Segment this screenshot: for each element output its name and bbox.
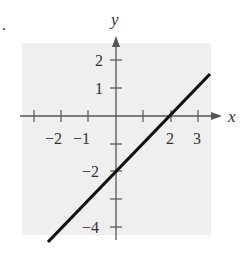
- x-tick-label: 2: [166, 130, 174, 147]
- x-tick-label: −1: [73, 130, 90, 147]
- chart: . x −2 −1 2 3 y 2 1 −2 −4: [0, 0, 246, 254]
- y-axis-arrow-icon: [112, 36, 120, 47]
- problem-bullet: .: [2, 16, 6, 33]
- y-axis-label: y: [109, 10, 119, 29]
- x-tick-label: 3: [193, 130, 201, 147]
- x-axis-label: x: [227, 107, 236, 126]
- x-axis-arrow-icon: [211, 112, 222, 120]
- y-tick-label: 1: [95, 80, 103, 97]
- y-tick-label: 2: [95, 52, 103, 69]
- y-tick-label: −2: [82, 163, 99, 180]
- x-tick-label: −2: [45, 130, 62, 147]
- y-tick-label: −4: [82, 219, 99, 236]
